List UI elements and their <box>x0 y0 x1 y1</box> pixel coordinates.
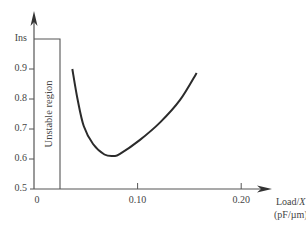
y-tick-label: 0.7 <box>15 122 28 133</box>
y-tick-label: 0.9 <box>15 62 28 73</box>
x-axis-title-prefix: Load/ <box>276 196 300 207</box>
y-tick-label: 0.6 <box>15 152 28 163</box>
x-tick-label: 0.10 <box>129 194 147 205</box>
y-tick-label: 0.8 <box>15 92 28 103</box>
x-axis-title: Load/X <box>276 196 306 207</box>
x-tick-label: 0 <box>35 194 40 205</box>
y-tick-label: Ins <box>15 32 27 43</box>
x-axis-title-var: X <box>298 196 306 207</box>
chart: 0.50.60.70.80.9Ins00.100.20 Unstable reg… <box>0 0 306 227</box>
series-line-curve <box>72 69 196 156</box>
x-tick-label: 0.20 <box>232 194 250 205</box>
y-tick-label: 0.5 <box>15 182 28 193</box>
x-axis-unit: (pF/µm) <box>274 209 306 221</box>
unstable-region-label: Unstable region <box>43 80 54 148</box>
